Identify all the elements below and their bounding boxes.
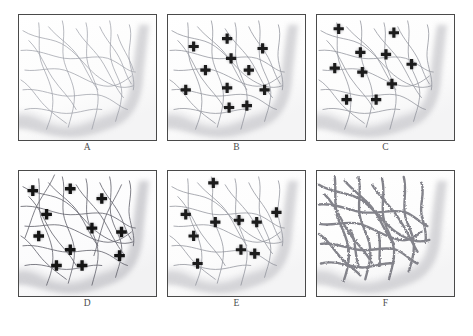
panel-grid: A xyxy=(18,14,455,314)
panel-cell-e: E xyxy=(167,170,306,314)
panel-e[interactable] xyxy=(167,170,306,297)
panel-label-a: A xyxy=(18,142,157,152)
panel-c[interactable] xyxy=(316,14,455,141)
panel-b[interactable] xyxy=(167,14,306,141)
panel-cell-f: F xyxy=(316,170,455,314)
panel-a-graphic xyxy=(19,15,156,140)
panel-a[interactable] xyxy=(18,14,157,141)
panel-cell-b: B xyxy=(167,14,306,158)
figure-container: A xyxy=(0,0,473,336)
panel-d[interactable] xyxy=(18,170,157,297)
panel-b-graphic xyxy=(168,15,305,140)
panel-label-b: B xyxy=(167,142,306,152)
panel-label-c: C xyxy=(316,142,455,152)
panel-c-graphic xyxy=(317,15,454,140)
panel-label-d: D xyxy=(18,298,157,308)
panel-label-e: E xyxy=(167,298,306,308)
panel-label-f: F xyxy=(316,298,455,308)
panel-cell-c: C xyxy=(316,14,455,158)
panel-f[interactable] xyxy=(316,170,455,297)
panel-e-graphic xyxy=(168,171,305,296)
panel-f-graphic xyxy=(317,171,454,296)
panel-cell-d: D xyxy=(18,170,157,314)
panel-cell-a: A xyxy=(18,14,157,158)
panel-d-graphic xyxy=(19,171,156,296)
